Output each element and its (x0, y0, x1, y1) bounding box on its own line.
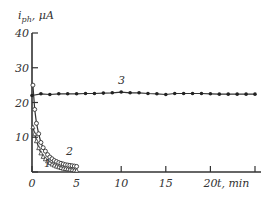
data-point (182, 92, 186, 96)
data-point (66, 92, 70, 96)
data-point (155, 92, 159, 96)
data-point (209, 92, 213, 96)
x-tick-label: 10 (114, 177, 128, 190)
data-point (218, 92, 222, 96)
data-point (110, 91, 114, 95)
y-tick-label: 20 (14, 97, 29, 110)
data-point (39, 92, 43, 96)
data-point (128, 91, 132, 95)
y-tick-label: 10 (15, 131, 29, 144)
curve-label-3: 3 (118, 74, 125, 87)
y-axis-label: iph, μA (18, 9, 54, 24)
data-point (33, 132, 37, 136)
data-point (226, 92, 230, 96)
series-line-3 (32, 92, 255, 95)
y-tick-label: 40 (14, 27, 29, 40)
data-point (102, 91, 106, 95)
data-point (30, 94, 34, 98)
data-point (57, 92, 61, 96)
x-tick-label: 0 (29, 177, 36, 190)
data-point (137, 91, 141, 95)
y-tick-label: 30 (15, 62, 29, 75)
x-tick-label: 5 (73, 177, 80, 190)
data-point (75, 164, 79, 168)
data-point (84, 92, 88, 96)
data-point (37, 146, 41, 150)
data-point (37, 132, 41, 136)
data-point (235, 92, 239, 96)
data-point (34, 139, 38, 143)
data-point (200, 92, 204, 96)
data-point (164, 93, 168, 97)
data-point (253, 92, 257, 96)
data-point (173, 92, 177, 96)
data-point (191, 92, 195, 96)
data-point (75, 92, 79, 96)
data-point (119, 90, 123, 94)
x-axis-label: t, min (217, 177, 249, 190)
data-point (93, 92, 97, 96)
data-point (146, 92, 150, 96)
chart: 1020304005101520 iph, μA t, min 1 2 3 (0, 0, 273, 197)
data-point (34, 121, 38, 125)
x-tick-label: 15 (159, 177, 173, 190)
series-group (30, 83, 257, 172)
data-point (244, 92, 248, 96)
curve-label-1: 1 (44, 157, 51, 170)
data-point (31, 83, 35, 87)
x-tick-label: 20 (202, 177, 217, 190)
data-point (39, 140, 43, 144)
data-point (48, 93, 52, 97)
data-point (33, 107, 37, 111)
curve-label-2: 2 (65, 145, 73, 158)
data-point (39, 151, 43, 155)
